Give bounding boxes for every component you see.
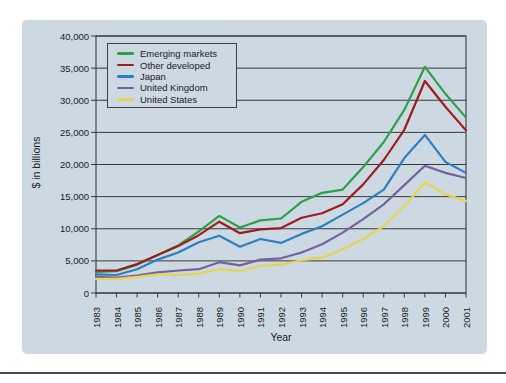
book-page: $ in billions Year Emerging marketsOther… xyxy=(0,0,506,383)
y-tick-label: 30,000 xyxy=(43,95,89,106)
x-tick-label: 1991 xyxy=(255,303,266,333)
y-tick-label: 20,000 xyxy=(43,159,89,170)
legend-item: United States xyxy=(117,94,236,105)
x-tick-label: 1996 xyxy=(358,303,369,333)
legend-item: United Kingdom xyxy=(117,82,236,93)
x-axis-title: Year xyxy=(96,331,466,343)
figure-panel: $ in billions Year Emerging marketsOther… xyxy=(22,20,487,354)
legend-line-swatch xyxy=(117,98,134,101)
x-tick-label: 2001 xyxy=(461,303,472,333)
x-tick-label: 1998 xyxy=(399,303,410,333)
y-axis-title: $ in billions xyxy=(30,123,43,203)
x-tick-label: 1984 xyxy=(111,303,122,333)
y-tick-label: 35,000 xyxy=(43,63,89,74)
legend-line-swatch xyxy=(117,75,134,78)
y-tick-label: 5,000 xyxy=(43,255,89,266)
page-rule-divider xyxy=(0,372,506,374)
series-line-japan xyxy=(96,135,466,275)
x-tick-label: 1997 xyxy=(378,303,389,333)
legend-label: Japan xyxy=(140,71,166,82)
legend-item: Other developed xyxy=(117,59,236,70)
x-tick-label: 1988 xyxy=(193,303,204,333)
x-tick-label: 1985 xyxy=(132,303,143,333)
x-tick-label: 1987 xyxy=(173,303,184,333)
legend-line-swatch xyxy=(117,87,134,90)
legend-item: Emerging markets xyxy=(117,48,236,59)
x-tick-label: 1992 xyxy=(276,303,287,333)
y-tick-label: 15,000 xyxy=(43,191,89,202)
x-tick-label: 1989 xyxy=(214,303,225,333)
legend-line-swatch xyxy=(117,64,134,67)
legend-label: Other developed xyxy=(140,60,210,71)
x-tick-label: 2000 xyxy=(440,303,451,333)
legend-line-swatch xyxy=(117,52,134,55)
x-tick-label: 1995 xyxy=(337,303,348,333)
legend-label: Emerging markets xyxy=(140,48,217,59)
legend-item: Japan xyxy=(117,71,236,82)
y-tick-label: 40,000 xyxy=(43,31,89,42)
legend-label: United States xyxy=(140,94,197,105)
legend-label: United Kingdom xyxy=(140,82,208,93)
x-tick-label: 1986 xyxy=(152,303,163,333)
y-tick-label: 25,000 xyxy=(43,127,89,138)
y-tick-label: 10,000 xyxy=(43,223,89,234)
x-tick-label: 1990 xyxy=(234,303,245,333)
x-tick-label: 1994 xyxy=(317,303,328,333)
x-tick-label: 1993 xyxy=(296,303,307,333)
y-tick-label: 0 xyxy=(43,288,89,299)
x-tick-label: 1999 xyxy=(419,303,430,333)
chart-legend: Emerging marketsOther developedJapanUnit… xyxy=(107,43,237,108)
x-tick-label: 1983 xyxy=(91,303,102,333)
